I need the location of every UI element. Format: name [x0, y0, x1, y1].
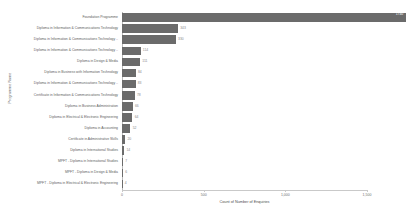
bar-row[interactable]: 78	[122, 90, 141, 101]
x-axis-tick-label: 500	[201, 193, 207, 197]
x-axis-tick-label: 0	[121, 193, 123, 197]
y-axis-tick-label: Diploma in Information & Communications …	[34, 34, 118, 45]
bar-value-label: 111	[142, 60, 147, 63]
y-axis-tick-label: Diploma in International Studies	[70, 145, 118, 156]
bar-row[interactable]: 64	[122, 112, 138, 123]
x-axis-tick-label: 1,500	[363, 193, 372, 197]
bar[interactable]	[122, 69, 136, 78]
bar[interactable]	[122, 169, 123, 178]
bar-row[interactable]: 66	[122, 101, 139, 112]
y-axis-tick-label: Diploma in Design & Media	[77, 56, 118, 67]
bar-value-label: 114	[143, 49, 148, 52]
bar[interactable]	[122, 35, 176, 44]
bar[interactable]	[122, 24, 178, 33]
bar[interactable]	[122, 124, 130, 133]
bar-row[interactable]: 20	[122, 134, 131, 145]
bar[interactable]	[122, 58, 140, 67]
bar[interactable]	[122, 135, 125, 144]
bar[interactable]: 1740	[122, 13, 406, 22]
bar-row[interactable]: 1740	[122, 12, 406, 23]
y-axis-tick-label: Diploma in Information & Communications …	[34, 79, 118, 90]
bar-value-label: 84	[138, 71, 142, 74]
bar-chart: Programme Name Foundation ProgrammeDiplo…	[0, 0, 417, 216]
bar-row[interactable]: 114	[122, 45, 148, 56]
bar-value-label: 4	[125, 182, 127, 185]
x-axis-tick	[367, 190, 368, 192]
y-axis-tick-labels: Foundation ProgrammeDiploma in Informati…	[0, 12, 120, 190]
bar[interactable]	[122, 102, 133, 111]
bar-row[interactable]: 4	[122, 179, 127, 190]
bar-row[interactable]: 330	[122, 34, 184, 45]
x-axis-title: Count of Number of Enquiries	[122, 200, 367, 204]
bar-row[interactable]: 111	[122, 56, 147, 67]
bar-value-label: 343	[180, 27, 186, 30]
bar-value-label: 78	[137, 94, 141, 97]
bar-value-label: 7	[125, 160, 127, 163]
y-axis-tick-label: Diploma in Business with Information Tec…	[44, 68, 118, 79]
bar[interactable]	[122, 47, 141, 56]
bar-row[interactable]: 6	[122, 167, 127, 178]
x-axis-tick	[122, 190, 123, 192]
bar-value-label: 6	[125, 171, 127, 174]
bar-value-label: 64	[135, 116, 139, 119]
bar-value-label: 14	[126, 149, 130, 152]
bar-row[interactable]: 52	[122, 123, 136, 134]
y-axis-tick-label: MPFT - Diploma in Design & Media	[65, 167, 118, 178]
bar-value-label: 66	[135, 105, 139, 108]
bar[interactable]	[122, 113, 132, 122]
y-axis-tick-label: Diploma in Electrical & Electronic Engin…	[49, 112, 118, 123]
y-axis-tick-label: Diploma in Information & Communications …	[37, 23, 118, 34]
bar-value-label: 330	[178, 38, 184, 41]
bar[interactable]	[122, 146, 124, 155]
plot-area: 17403433301141118483786664522014764	[122, 12, 367, 190]
bar[interactable]	[122, 91, 135, 100]
y-axis-tick-label: MPFT - Diploma in Electrical & Electroni…	[37, 179, 118, 190]
bar-series: 17403433301141118483786664522014764	[122, 12, 367, 190]
bar-row[interactable]: 84	[122, 68, 142, 79]
x-axis-tick	[204, 190, 205, 192]
x-axis-tick	[285, 190, 286, 192]
bar-row[interactable]: 7	[122, 156, 127, 167]
bar-value-label: 83	[138, 82, 142, 85]
x-axis-line	[122, 190, 367, 191]
bar-value-label: 1740	[396, 13, 404, 16]
bar-row[interactable]: 14	[122, 145, 130, 156]
bar-value-label: 52	[133, 127, 137, 130]
bar-row[interactable]: 343	[122, 23, 186, 34]
y-axis-tick-label: Diploma in Information & Communications …	[34, 45, 118, 56]
x-axis-tick-label: 1,000	[281, 193, 290, 197]
bar[interactable]	[122, 158, 123, 167]
bar-row[interactable]: 83	[122, 79, 142, 90]
bar[interactable]	[122, 180, 123, 189]
y-axis-tick-label: MPFT - Diploma in International Studies	[58, 156, 118, 167]
bar[interactable]	[122, 80, 136, 89]
bar-value-label: 20	[127, 138, 131, 141]
y-axis-tick-label: Diploma in Business Administration	[65, 101, 118, 112]
y-axis-tick-label: Certificate in Administrative Skills	[68, 134, 118, 145]
y-axis-tick-label: Foundation Programme	[82, 12, 118, 23]
y-axis-tick-label: Certificate in Information & Communicati…	[34, 90, 118, 101]
y-axis-tick-label: Diploma in Accounting	[84, 123, 118, 134]
